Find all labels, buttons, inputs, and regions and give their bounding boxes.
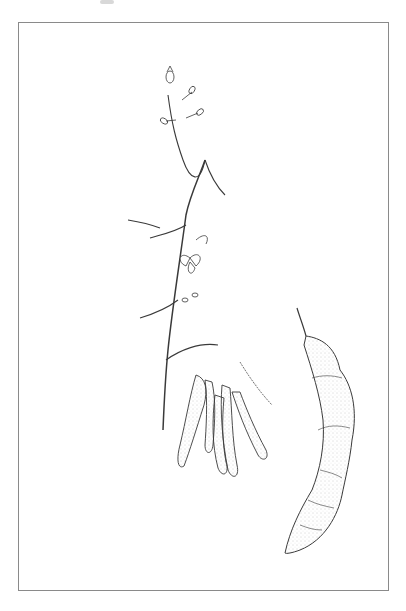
tamarind-illustration: // generate compound leaves procedurally… xyxy=(0,0,406,611)
flower-buds xyxy=(159,66,204,125)
mature-pod xyxy=(285,308,354,553)
stems xyxy=(128,95,225,430)
open-flower xyxy=(180,236,207,302)
pod-cluster xyxy=(178,362,272,476)
